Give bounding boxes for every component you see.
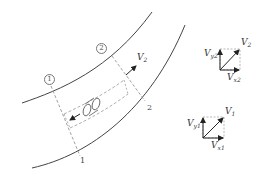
vx2-label: Vx2 bbox=[227, 73, 241, 83]
vx2-sub: x2 bbox=[234, 76, 241, 83]
streamtube-end-1 bbox=[64, 114, 70, 128]
flow-velocity-label: V2 bbox=[137, 53, 147, 63]
outflow-arrow bbox=[126, 66, 136, 75]
v2-resultant-label: V2 bbox=[241, 38, 251, 48]
section-1-circled-label: 1 bbox=[44, 74, 55, 85]
v1-resultant-label: V1 bbox=[225, 107, 235, 117]
v1-sub: 1 bbox=[232, 110, 236, 117]
vx1-sub: x1 bbox=[218, 144, 225, 151]
vy1-sub: y1 bbox=[194, 122, 201, 129]
section-2-circled-label: 2 bbox=[96, 43, 107, 54]
vy1-label: Vy1 bbox=[187, 119, 201, 129]
flow-velocity-sub: 2 bbox=[144, 56, 148, 63]
section-2-label: 2 bbox=[147, 104, 152, 112]
streamtube-upper bbox=[64, 80, 124, 114]
vx1-label: Vx1 bbox=[211, 141, 225, 151]
section-1-label: 1 bbox=[80, 157, 85, 165]
inflow-arrow bbox=[70, 114, 80, 120]
channel-upper-wall bbox=[22, 12, 152, 103]
v1-resultant-arrow bbox=[203, 118, 223, 138]
diagram-canvas bbox=[0, 0, 264, 179]
streamtube-end-2 bbox=[124, 80, 128, 94]
vy2-sub: y2 bbox=[211, 52, 218, 59]
section-line-1 bbox=[51, 86, 80, 156]
vy2-label: Vy2 bbox=[204, 49, 218, 59]
v2-sub: 2 bbox=[248, 41, 252, 48]
v2-resultant-arrow bbox=[220, 50, 239, 70]
